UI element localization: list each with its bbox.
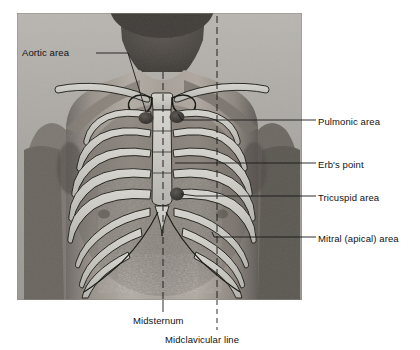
label-midclavicular-line: Midclavicular line [165, 334, 239, 345]
label-erbs-point: Erb's point [318, 159, 364, 170]
label-mitral-area: Mitral (apical) area [318, 233, 399, 244]
label-aortic-area: Aortic area [22, 47, 69, 58]
label-tricuspid-area: Tricuspid area [318, 192, 379, 203]
male-torso-photograph [17, 0, 302, 306]
label-pulmonic-area: Pulmonic area [318, 116, 380, 127]
label-midsternum: Midsternum [133, 315, 184, 326]
